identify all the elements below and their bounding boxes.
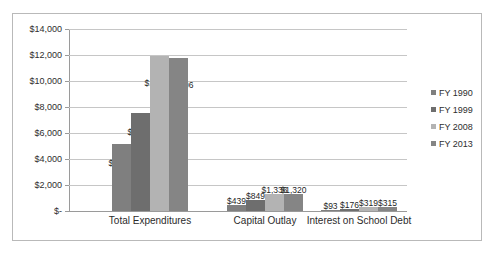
bar[interactable] bbox=[112, 144, 131, 211]
gridline- bbox=[69, 211, 407, 212]
legend-item-fy-1990[interactable]: FY 1990 bbox=[431, 84, 493, 101]
legend-swatch-icon bbox=[431, 90, 436, 95]
y-axis-tick-label: $- bbox=[54, 206, 62, 216]
y-axis-tick bbox=[65, 133, 69, 134]
y-axis-tick-label: $8,000 bbox=[34, 102, 62, 112]
y-axis-tick-label: $4,000 bbox=[34, 154, 62, 164]
y-axis-tick-label: $10,000 bbox=[29, 76, 62, 86]
x-axis-category-label: Total Expenditures bbox=[109, 215, 191, 226]
bar[interactable] bbox=[284, 194, 303, 211]
y-axis-tick bbox=[65, 107, 69, 108]
legend-item-fy-2008[interactable]: FY 2008 bbox=[431, 118, 493, 135]
y-axis-tick bbox=[65, 29, 69, 30]
legend-item-label: FY 2013 bbox=[439, 139, 473, 149]
legend-swatch-icon bbox=[431, 141, 436, 146]
y-axis-tick-label: $2,000 bbox=[34, 180, 62, 190]
legend-item-label: FY 1999 bbox=[439, 105, 473, 115]
bar-group bbox=[321, 29, 397, 211]
bar[interactable] bbox=[378, 207, 397, 211]
legend-item-fy-1999[interactable]: FY 1999 bbox=[431, 101, 493, 118]
bar[interactable] bbox=[265, 194, 284, 211]
y-axis-tick bbox=[65, 81, 69, 82]
y-axis-tick bbox=[65, 55, 69, 56]
bar[interactable] bbox=[131, 113, 150, 211]
bar[interactable] bbox=[321, 210, 340, 211]
y-axis-line bbox=[69, 29, 70, 211]
y-axis-tick bbox=[65, 159, 69, 160]
x-axis-category-label: Capital Outlay bbox=[234, 215, 297, 226]
x-axis-category-label: Interest on School Debt bbox=[307, 215, 412, 226]
bar[interactable] bbox=[340, 209, 359, 211]
chart-frame: $-$2,000$4,000$6,000$8,000$10,000$12,000… bbox=[12, 13, 482, 241]
y-axis-tick bbox=[65, 185, 69, 186]
bar-group bbox=[112, 29, 188, 211]
chart-legend: FY 1990FY 1999FY 2008FY 2013 bbox=[431, 84, 493, 152]
y-axis-tick-label: $12,000 bbox=[29, 50, 62, 60]
bar[interactable] bbox=[169, 58, 188, 211]
legend-swatch-icon bbox=[431, 107, 436, 112]
bar[interactable] bbox=[359, 207, 378, 211]
bar-group bbox=[227, 29, 303, 211]
y-axis-tick-label: $6,000 bbox=[34, 128, 62, 138]
y-axis-tick bbox=[65, 211, 69, 212]
y-axis-tick-label: $14,000 bbox=[29, 24, 62, 34]
legend-swatch-icon bbox=[431, 124, 436, 129]
plot-area: $-$2,000$4,000$6,000$8,000$10,000$12,000… bbox=[69, 29, 407, 211]
bar[interactable] bbox=[150, 56, 169, 211]
legend-item-fy-2013[interactable]: FY 2013 bbox=[431, 135, 493, 152]
legend-item-label: FY 1990 bbox=[439, 88, 473, 98]
bar[interactable] bbox=[246, 200, 265, 211]
legend-item-label: FY 2008 bbox=[439, 122, 473, 132]
bar[interactable] bbox=[227, 205, 246, 211]
